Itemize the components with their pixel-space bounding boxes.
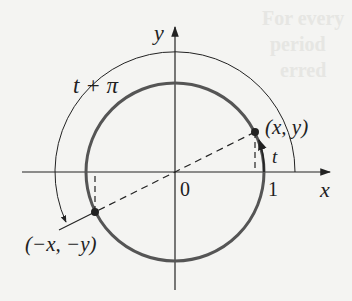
one-label: 1 (268, 178, 278, 200)
point-q-dot (91, 208, 99, 216)
unit-circle-diagram: y x 0 1 (x, y) (−x, −y) t t + π (0, 0, 352, 301)
angle-t-plus-pi-label: t + π (73, 73, 119, 98)
angle-t-label: t (272, 146, 278, 167)
origin-label: 0 (180, 178, 190, 200)
radius-extension (59, 212, 95, 230)
x-axis-label: x (319, 177, 330, 202)
y-axis-label: y (152, 20, 164, 45)
point-p-dot (251, 128, 259, 136)
point-q-label: (−x, −y) (25, 232, 96, 256)
point-p-label: (x, y) (265, 115, 308, 139)
